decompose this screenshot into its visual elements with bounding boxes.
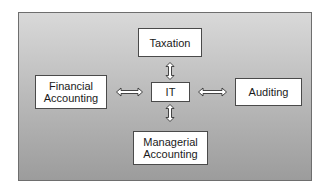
node-managerial-accounting-line1: Managerial [143, 136, 197, 148]
node-financial-accounting-line2: Accounting [44, 92, 98, 104]
double-arrow-horizontal-icon [198, 87, 227, 97]
double-arrow-vertical-icon [165, 104, 175, 122]
node-auditing-label: Auditing [249, 86, 289, 98]
node-financial-accounting-line1: Financial [49, 80, 93, 92]
node-it-label: IT [166, 86, 176, 98]
node-auditing: Auditing [235, 78, 302, 106]
node-it: IT [151, 82, 190, 102]
node-taxation-label: Taxation [150, 37, 191, 49]
double-arrow-horizontal-icon [116, 87, 143, 97]
double-arrow-vertical-icon [165, 62, 175, 80]
node-managerial-accounting-line2: Accounting [143, 148, 197, 160]
node-taxation: Taxation [138, 28, 202, 57]
node-managerial-accounting: Managerial Accounting [133, 131, 208, 165]
node-financial-accounting: Financial Accounting [35, 75, 107, 109]
